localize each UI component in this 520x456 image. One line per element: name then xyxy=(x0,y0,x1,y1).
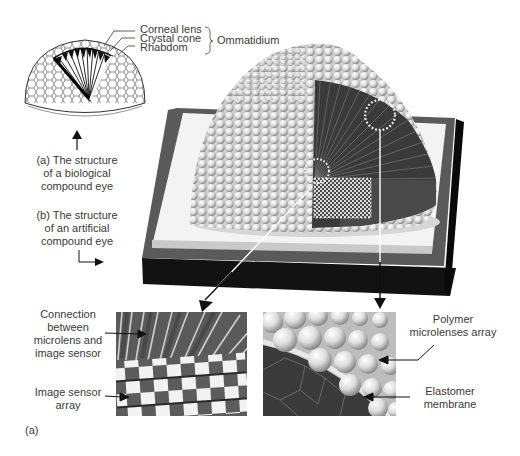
label-image-sensor-array: Image sensor array xyxy=(30,386,106,412)
label-line: membrane xyxy=(405,398,495,411)
caption-biological-eye: (a) The structure of a biological compou… xyxy=(22,154,132,193)
label-ommatidium: Ommatidium xyxy=(217,34,279,47)
label-elastomer-membrane: Elastomer membrane xyxy=(405,385,495,411)
label-line: Elastomer xyxy=(405,385,495,398)
label-rhabdom: Rhabdom xyxy=(140,41,188,54)
caption-line: compound eye xyxy=(22,235,132,248)
label-line: Polymer xyxy=(398,313,508,326)
caption-artificial-eye: (b) The structure of an artificial compo… xyxy=(22,209,132,248)
panel-label: (a) xyxy=(25,424,38,437)
label-line: microlens and xyxy=(28,334,108,347)
caption-line: of an artificial xyxy=(22,222,132,235)
label-connection: Connection between microlens and image s… xyxy=(28,308,108,360)
label-line: Connection xyxy=(28,308,108,321)
caption-line: (a) The structure xyxy=(22,154,132,167)
label-line: image sensor xyxy=(28,347,108,360)
label-line: between xyxy=(28,321,108,334)
label-line: array xyxy=(30,399,106,412)
caption-line: of a biological xyxy=(22,167,132,180)
caption-line: compound eye xyxy=(22,180,132,193)
label-line: Image sensor xyxy=(30,386,106,399)
caption-line: (b) The structure xyxy=(22,209,132,222)
label-polymer-microlenses: Polymer microlenses array xyxy=(398,313,508,339)
label-line: microlenses array xyxy=(398,326,508,339)
inset-sensor-photo xyxy=(114,312,250,421)
